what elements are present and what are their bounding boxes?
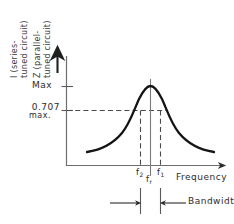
y-tick-label-max: Max [32, 81, 52, 90]
y-axis-caption-current-line1: I (series- [10, 40, 19, 78]
bandwidth-label: Bandwidth [188, 197, 234, 206]
x-tick-label-f1-sub: 1 [161, 171, 165, 178]
y-axis-caption-current-2: tuned circuit) [20, 20, 29, 78]
y-axis-caption-impedance-2: tuned circuit) [43, 20, 52, 78]
x-tick-label-f2: f2 [136, 168, 144, 178]
x-tick-label-fr-sub: r [150, 178, 153, 185]
y-axis-caption-current-line2: tuned circuit) [20, 20, 29, 78]
y-tick-label-0707: 0.707 max. [20, 103, 60, 121]
y-axis-caption-impedance-line1: Z (parallel- [33, 31, 42, 78]
x-axis-label: Frequency [176, 173, 227, 182]
y-axis-caption-impedance-line2: tuned circuit) [43, 20, 52, 78]
x-tick-label-f2-sub: 2 [140, 171, 144, 178]
x-tick-label-fr: fr [146, 175, 152, 185]
resonance-curve-figure: I (series- tuned circuit) Z (parallel- t… [0, 0, 234, 224]
y-axis-caption-current: I (series- [10, 40, 19, 78]
y-tick-label-0707-unit: max. [20, 112, 60, 120]
y-axis-caption-impedance: Z (parallel- [33, 31, 42, 78]
x-tick-label-f1: f1 [157, 168, 165, 178]
